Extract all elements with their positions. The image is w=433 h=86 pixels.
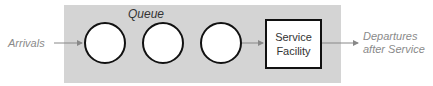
- departures-label-line2: after Service: [363, 43, 425, 56]
- departures-label-line1: Departures: [363, 30, 425, 43]
- queue-slot-2: [142, 22, 184, 64]
- service-facility-box: Service Facility: [265, 19, 322, 69]
- departures-label: Departures after Service: [363, 30, 425, 56]
- service-label-line2: Facility: [276, 44, 310, 58]
- service-label-line1: Service: [275, 30, 312, 44]
- queue-slot-3: [200, 22, 242, 64]
- queue-slot-1: [84, 22, 126, 64]
